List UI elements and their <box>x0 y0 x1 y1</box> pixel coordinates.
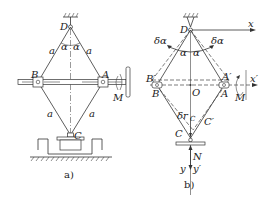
label-alpha-a-1: α <box>61 41 68 52</box>
label-delta-r: δr <box>177 110 189 121</box>
label-y-prime: y′ <box>192 163 202 174</box>
label-d-a: D <box>59 21 68 32</box>
label-link-a-1: a <box>49 45 55 56</box>
label-a-prime: A′ <box>221 71 232 82</box>
workpiece-a <box>60 140 81 150</box>
label-b-prime: B′ <box>145 73 156 84</box>
press-plate-b <box>176 142 205 145</box>
label-a-a: A <box>101 69 109 80</box>
label-alpha-b-1: α <box>180 47 187 58</box>
label-delta-alpha-2: δα <box>211 35 224 46</box>
caption-b: b) <box>184 179 194 190</box>
label-link-a-4: a <box>89 108 95 119</box>
y-axis-arrow <box>189 165 193 170</box>
label-a-b: A <box>220 88 228 99</box>
label-o: O <box>192 87 200 98</box>
caption-a: a) <box>64 169 74 180</box>
subfigure-a: D B A C a a a a α α M a) <box>18 13 130 180</box>
label-x-prime: x′ <box>250 73 259 84</box>
label-b-a: B <box>30 69 38 80</box>
label-link-a-3: a <box>47 108 53 119</box>
label-y: y <box>179 163 186 174</box>
label-m-b: M <box>234 92 246 103</box>
label-c-b: C <box>175 128 183 139</box>
label-c-a: C <box>74 130 82 141</box>
label-d-b: D <box>179 24 188 35</box>
link-ac-a <box>71 82 104 135</box>
label-alpha-b-2: α <box>193 47 200 58</box>
press-base-a <box>30 133 112 161</box>
label-delta-r-sub: C <box>190 115 196 123</box>
link-bc-a <box>38 82 71 135</box>
diagram-canvas: D B A C a a a a α α M a) <box>0 0 265 203</box>
subfigure-b: D x δα δα α α B′ B A′ A O x′ M δr C C′ C… <box>145 13 259 195</box>
pin-c-b <box>189 138 193 142</box>
label-c-prime: C′ <box>204 116 215 127</box>
label-alpha-a-2: α <box>73 41 80 52</box>
label-n: N <box>192 151 203 162</box>
label-link-a-2: a <box>86 45 92 56</box>
origin-o <box>190 84 192 86</box>
label-m-a: M <box>112 92 124 103</box>
label-delta-alpha-1: δα <box>154 35 167 46</box>
label-b-b: B <box>151 88 159 99</box>
handwheel-a <box>126 67 130 97</box>
label-x: x <box>248 18 254 29</box>
